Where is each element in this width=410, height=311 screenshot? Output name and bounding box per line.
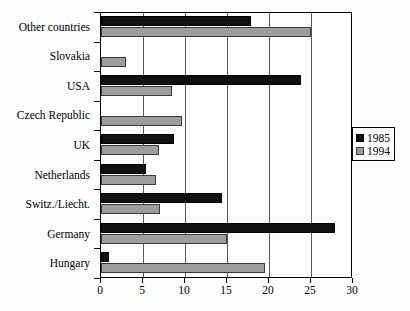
bar-1985 [101,252,109,262]
bar-1994 [101,263,265,273]
x-axis-tick-label: 15 [220,284,232,297]
y-axis-label: USA [0,80,95,92]
bar-1985 [101,193,222,203]
bar-rows [101,13,351,277]
bar-group [101,13,351,43]
y-axis-label: Netherlands [0,169,95,181]
x-axis-tick-label: 30 [346,284,358,297]
x-axis-tick-label: 10 [178,284,190,297]
x-axis-tick [142,278,143,283]
bar-group [101,131,351,161]
bar-group [101,161,351,191]
bar-group [101,72,351,102]
bar-group [101,43,351,73]
chart-legend: 1985 1994 [352,127,395,161]
x-axis: 051015202530 [100,278,352,308]
bar-group [101,249,351,279]
y-axis-label: Germany [0,228,95,240]
bar-group [101,102,351,132]
legend-item-1994: 1994 [356,144,390,157]
bar-1985 [101,223,335,233]
x-axis-tick [226,278,227,283]
bar-1994 [101,234,227,244]
bar-group [101,220,351,250]
y-axis-label: Switz./Liecht. [0,198,95,210]
y-axis-label: Hungary [0,257,95,269]
legend-label: 1994 [367,145,390,157]
bar-1994 [101,27,311,37]
bar-1994 [101,204,160,214]
legend-item-1985: 1985 [356,131,390,144]
plot-area [100,12,352,278]
bar-1985 [101,134,174,144]
bar-1985 [101,75,301,85]
x-axis-tick [184,278,185,283]
y-axis-label: Slovakia [0,50,95,62]
gray-square-icon [356,147,364,155]
x-axis-tick-label: 5 [139,284,145,297]
bar-1985 [101,164,146,174]
bar-1994 [101,86,172,96]
bar-1985 [101,16,251,26]
bar-1994 [101,57,126,67]
x-axis-tick-label: 20 [262,284,274,297]
x-axis-tick [310,278,311,283]
y-axis-label: Czech Republic [0,109,95,121]
y-axis-category-labels: Other countriesSlovakiaUSACzech Republic… [0,12,95,278]
bar-chart: Other countriesSlovakiaUSACzech Republic… [0,0,410,311]
bar-1994 [101,145,159,155]
y-axis-label: Other countries [0,21,95,33]
y-axis-label: UK [0,139,95,151]
black-square-icon [356,134,364,142]
bar-1994 [101,175,156,185]
x-axis-tick [352,278,353,283]
x-axis-tick-label: 0 [97,284,103,297]
x-axis-tick [100,278,101,283]
bar-1994 [101,116,182,126]
legend-label: 1985 [367,132,390,144]
bar-group [101,190,351,220]
x-axis-tick-label: 25 [304,284,316,297]
x-axis-tick [268,278,269,283]
